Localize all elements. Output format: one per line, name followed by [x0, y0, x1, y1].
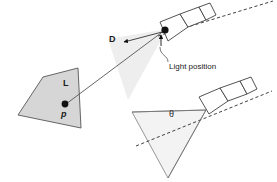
label-direction-vector: D: [109, 35, 116, 44]
label-surface-point: p: [61, 110, 67, 119]
light-cone-top: [108, 29, 167, 100]
label-light-vector: L: [63, 79, 69, 88]
label-cone-angle: θ: [169, 110, 174, 119]
quadrilateral-surface: [18, 68, 81, 128]
spotlight-geometry-figure: D L p θ Light position: [0, 0, 277, 182]
diagram-canvas: [0, 0, 277, 182]
surface-point-marker: [62, 101, 69, 108]
light-position-callout-line: [160, 47, 168, 62]
label-light-position: Light position: [169, 63, 216, 71]
light-source-point: [161, 26, 168, 33]
light-cone-bottom: [132, 110, 206, 178]
